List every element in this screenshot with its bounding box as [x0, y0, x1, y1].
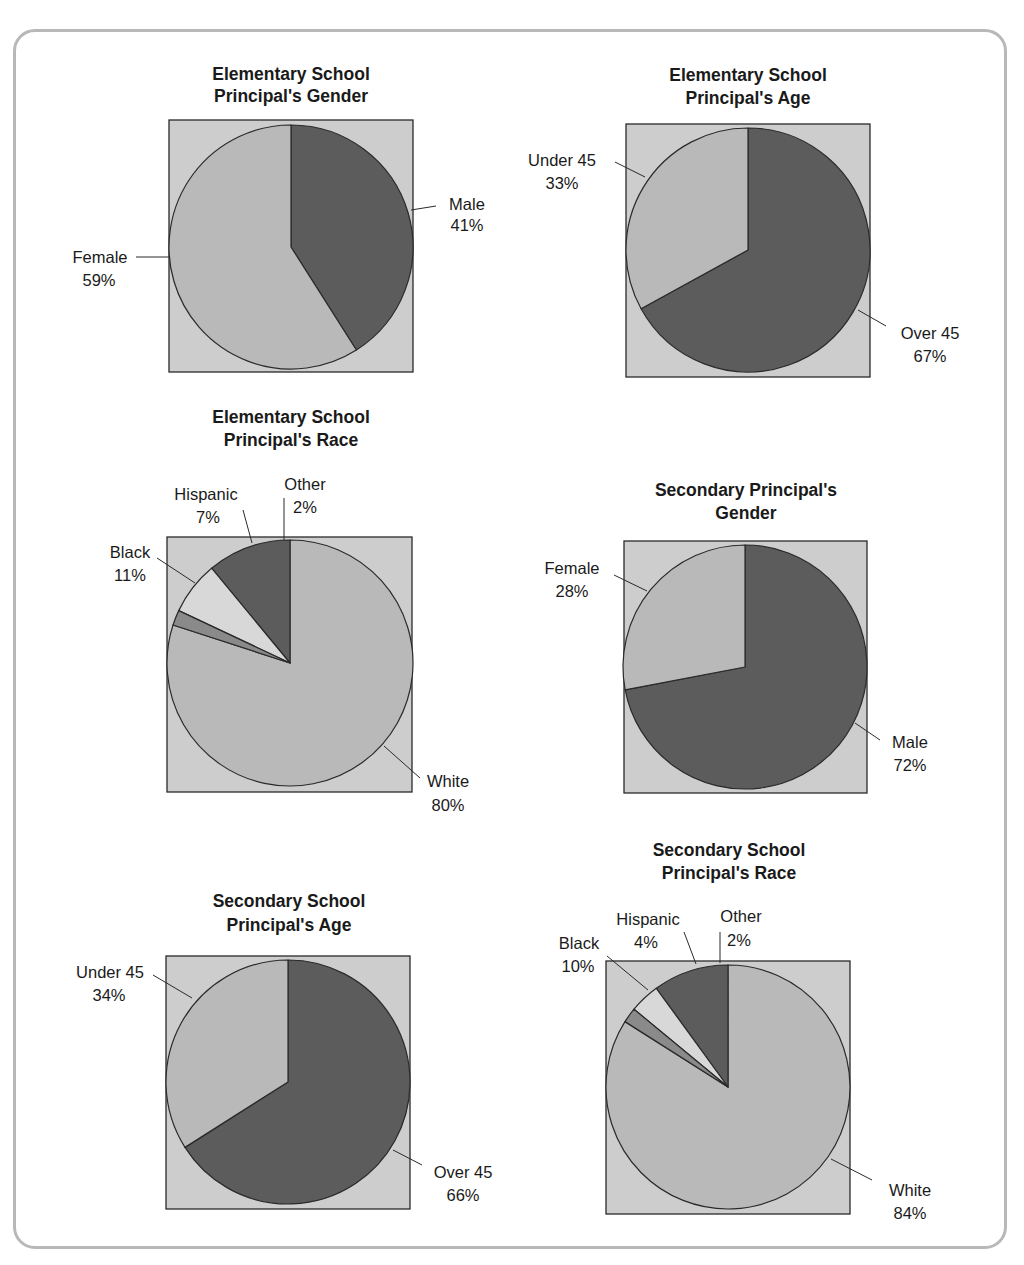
label-black: Black [559, 934, 600, 952]
chart-title-line1: Elementary School [669, 65, 827, 85]
chart-elementary-age: Elementary School Principal's Age Under … [528, 65, 959, 377]
value-over-45: 67% [913, 347, 946, 365]
chart-title-line1: Secondary School [653, 840, 806, 860]
label-other: Other [720, 907, 762, 925]
chart-title-line2: Principal's Age [226, 915, 351, 935]
value-other: 2% [293, 498, 317, 516]
value-under-45: 33% [545, 174, 578, 192]
label-over-45: Over 45 [901, 324, 960, 342]
chart-title-line2: Principal's Age [685, 88, 810, 108]
label-hispanic: Hispanic [616, 910, 679, 928]
chart-title-line2: Gender [715, 503, 776, 523]
label-male: Male [892, 733, 928, 751]
label-over-45: Over 45 [434, 1163, 493, 1181]
value-other: 2% [727, 931, 751, 949]
pie [606, 965, 850, 1209]
value-over-45: 66% [446, 1186, 479, 1204]
pie-charts-figure: Elementary School Principal's Gender Mal… [0, 0, 1024, 1265]
value-male: 72% [893, 756, 926, 774]
label-hispanic: Hispanic [174, 485, 237, 503]
label-white: White [427, 772, 469, 790]
chart-title-line2: Principal's Race [662, 863, 797, 883]
chart-title-line1: Elementary School [212, 64, 370, 84]
label-male: Male [449, 195, 485, 213]
chart-title-line2: Principal's Gender [214, 86, 368, 106]
label-female: Female [544, 559, 599, 577]
label-under-45: Under 45 [76, 963, 144, 981]
pie [623, 545, 867, 789]
value-female: 59% [82, 271, 115, 289]
pie [166, 960, 410, 1204]
chart-elementary-race: Elementary School Principal's Race Black… [110, 407, 469, 814]
value-under-45: 34% [92, 986, 125, 1004]
label-white: White [889, 1181, 931, 1199]
value-white: 80% [431, 796, 464, 814]
value-female: 28% [555, 582, 588, 600]
chart-title-line1: Secondary School [213, 891, 366, 911]
chart-title-line1: Secondary Principal's [655, 480, 837, 500]
label-female: Female [72, 248, 127, 266]
chart-secondary-gender: Secondary Principal's Gender Female 28% … [544, 480, 927, 793]
label-other: Other [284, 475, 326, 493]
label-under-45: Under 45 [528, 151, 596, 169]
value-hispanic: 7% [196, 508, 220, 526]
chart-secondary-race: Secondary School Principal's Race Black … [559, 840, 931, 1222]
pie [626, 128, 870, 372]
value-male: 41% [450, 216, 483, 234]
value-white: 84% [893, 1204, 926, 1222]
chart-elementary-gender: Elementary School Principal's Gender Mal… [72, 64, 484, 372]
pie [167, 540, 413, 786]
value-black: 10% [561, 957, 594, 975]
chart-title-line2: Principal's Race [224, 430, 359, 450]
chart-title-line1: Elementary School [212, 407, 370, 427]
value-black: 11% [114, 566, 146, 584]
pie [169, 125, 413, 369]
value-hispanic: 4% [634, 933, 658, 951]
label-black: Black [110, 543, 151, 561]
chart-secondary-age: Secondary School Principal's Age Under 4… [76, 891, 492, 1209]
